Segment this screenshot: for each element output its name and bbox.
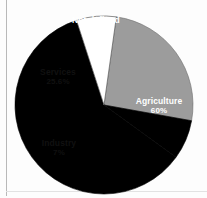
figure-root: Agriculture 60% Services 25.6% Industry … xyxy=(0,0,207,198)
pie-label-industry: Industry 7% xyxy=(28,139,90,157)
pie-label-not-defined: Not defined 7% xyxy=(67,16,125,34)
pie-label-agriculture-value: 60% xyxy=(119,107,199,116)
pie-label-services: Services 25.6% xyxy=(22,68,94,86)
pie-label-services-value: 25.6% xyxy=(22,78,94,87)
pie-label-not-defined-value: 7% xyxy=(67,26,125,35)
pie-label-industry-value: 7% xyxy=(28,149,90,158)
pie-label-agriculture: Agriculture 60% xyxy=(119,97,199,115)
